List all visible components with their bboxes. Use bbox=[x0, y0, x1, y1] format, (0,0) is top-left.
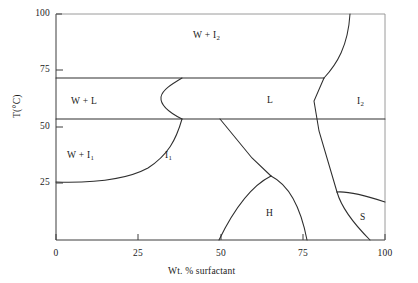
axes-frame bbox=[56, 14, 385, 240]
region-label-w-plus-i1: W + I1 bbox=[67, 150, 94, 160]
region-label-text: W + I bbox=[193, 30, 217, 40]
phase-diagram-figure: 100 75 50 25 0 25 50 75 100 T(°C) Wt. % … bbox=[0, 0, 418, 283]
region-label-subscript: 2 bbox=[360, 100, 364, 107]
axis-ticks bbox=[56, 14, 385, 240]
region-label-hexagonal: H bbox=[266, 208, 273, 218]
boundary-i1-right-boundary bbox=[220, 119, 271, 176]
y-axis-title: T(°C) bbox=[12, 94, 22, 118]
y-tick-label-75: 75 bbox=[24, 64, 50, 74]
region-label-w-plus-l: W + L bbox=[71, 96, 97, 106]
region-label-text: L bbox=[267, 95, 273, 105]
x-tick-label-100: 100 bbox=[373, 248, 397, 258]
region-label-i1: I1 bbox=[165, 150, 172, 160]
region-label-text: W + I bbox=[67, 150, 91, 160]
boundary-i2-left-boundary bbox=[314, 78, 337, 192]
boundary-w-plus-l-lens-curve bbox=[161, 78, 182, 119]
y-tick-label-50: 50 bbox=[24, 121, 50, 131]
region-label-text: S bbox=[360, 212, 366, 222]
region-label-solid: S bbox=[360, 212, 366, 222]
region-label-i2: I2 bbox=[357, 96, 364, 106]
region-label-text: H bbox=[266, 208, 273, 218]
x-tick-label-25: 25 bbox=[126, 248, 150, 258]
x-tick-label-50: 50 bbox=[209, 248, 233, 258]
region-label-subscript: 1 bbox=[91, 154, 95, 161]
boundary-h-dome-left bbox=[219, 176, 271, 240]
boundary-s-lens-upper bbox=[337, 192, 385, 202]
region-label-text: W + L bbox=[71, 96, 97, 106]
x-tick-label-75: 75 bbox=[291, 248, 315, 258]
region-label-w-plus-i2: W + I2 bbox=[193, 30, 220, 40]
region-label-liquid: L bbox=[267, 95, 273, 105]
boundary-h-dome-right bbox=[271, 176, 307, 240]
x-tick-label-0: 0 bbox=[44, 248, 68, 258]
boundary-i2-top-boundary bbox=[324, 14, 350, 78]
phase-boundaries bbox=[56, 14, 385, 240]
region-label-subscript: 1 bbox=[168, 154, 172, 161]
phase-diagram-plot bbox=[0, 0, 418, 283]
region-label-subscript: 2 bbox=[217, 34, 221, 41]
y-tick-label-100: 100 bbox=[24, 8, 50, 18]
x-axis-title: Wt. % surfactant bbox=[168, 266, 235, 276]
y-tick-label-25: 25 bbox=[24, 177, 50, 187]
